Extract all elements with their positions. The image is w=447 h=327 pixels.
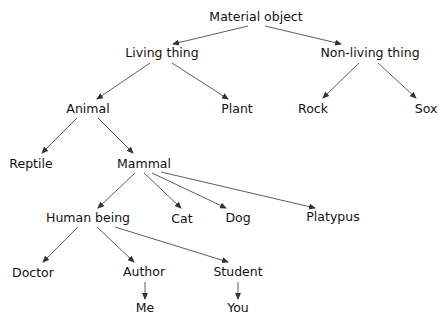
node-rock: Rock	[298, 103, 328, 116]
edge-animal-to-mammal	[98, 118, 133, 153]
edge-material-object-to-living-thing	[173, 26, 248, 44]
edge-human-being-to-student	[115, 227, 228, 262]
edge-material-object-to-non-living-thing	[265, 26, 341, 44]
edge-human-being-to-doctor	[43, 227, 78, 262]
edge-non-living-thing-to-sox	[378, 63, 416, 98]
node-me: Me	[136, 302, 154, 315]
node-cat: Cat	[171, 213, 192, 226]
node-living-thing: Living thing	[125, 47, 198, 60]
node-author: Author	[123, 266, 165, 279]
node-plant: Plant	[221, 103, 253, 116]
node-reptile: Reptile	[9, 158, 52, 171]
edge-human-being-to-author	[97, 227, 134, 262]
edge-mammal-to-human-being	[98, 173, 135, 208]
node-human-being: Human being	[46, 212, 130, 225]
edge-living-thing-to-animal	[97, 63, 150, 99]
node-non-living-thing: Non-living thing	[320, 47, 419, 60]
node-you: You	[227, 302, 249, 315]
node-animal: Animal	[66, 103, 109, 116]
taxonomy-tree-diagram: Material objectLiving thingNon-living th…	[0, 0, 447, 327]
node-sox: Sox	[415, 103, 438, 116]
node-doctor: Doctor	[12, 267, 54, 280]
node-student: Student	[213, 266, 262, 279]
edge-non-living-thing-to-rock	[323, 63, 359, 98]
node-dog: Dog	[225, 212, 250, 225]
node-material-object: Material object	[209, 11, 302, 24]
node-platypus: Platypus	[306, 211, 359, 224]
edge-living-thing-to-plant	[172, 63, 228, 99]
edge-animal-to-reptile	[42, 118, 77, 153]
node-mammal: Mammal	[117, 158, 171, 171]
edge-mammal-to-platypus	[161, 172, 315, 208]
